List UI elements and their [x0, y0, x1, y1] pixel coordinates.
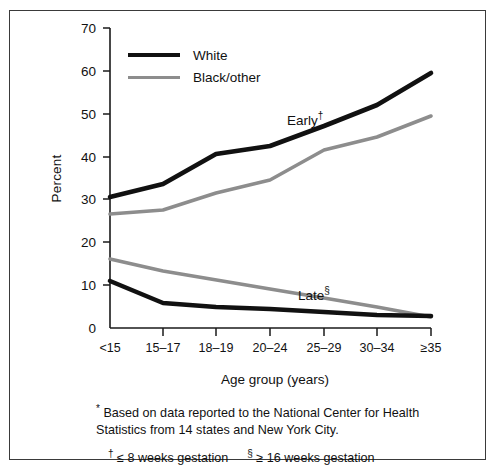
- footnote-section-text: ≥ 16 weeks gestation: [256, 451, 374, 465]
- y-tick-label-30: 30: [62, 192, 96, 207]
- x-tick-label-15-17: 15–17: [133, 341, 193, 355]
- annotation-early-text: Early: [287, 113, 318, 128]
- y-tick-label-0: 0: [62, 321, 96, 336]
- legend-swatch-black-other-icon: [128, 76, 180, 79]
- legend-label-white: White: [193, 48, 228, 63]
- footnote-section-mark: §: [247, 448, 253, 459]
- y-tick-label-50: 50: [62, 107, 96, 122]
- footnote-dagger-mark: †: [108, 448, 114, 459]
- legend-label-black-other: Black/other: [193, 70, 261, 85]
- x-tick-label-20-24: 20–24: [240, 341, 300, 355]
- x-tick-label-30-34: 30–34: [347, 341, 407, 355]
- y-tick-label-10: 10: [62, 278, 96, 293]
- annotation-late-text: Late: [298, 288, 324, 303]
- annotation-early-mark: †: [318, 110, 324, 121]
- series-line-early-black-other: [110, 116, 431, 214]
- x-tick-marks: [163, 328, 431, 336]
- footnote-dagger-section: † ≤ 8 weeks gestation § ≥ 16 weeks gesta…: [96, 447, 466, 467]
- series-line-late-white: [110, 281, 431, 316]
- footnote-star-text: Based on data reported to the National C…: [96, 406, 419, 436]
- annotation-late-mark: §: [324, 285, 330, 296]
- legend-item-black-other: Black/other: [128, 66, 261, 88]
- y-tick-label-20: 20: [62, 235, 96, 250]
- y-tick-label-40: 40: [62, 150, 96, 165]
- footnote-star: * Based on data reported to the National…: [96, 402, 466, 438]
- footnote-dagger-text: ≤ 8 weeks gestation: [117, 451, 228, 465]
- x-tick-label-lt15: <15: [80, 341, 140, 355]
- annotation-late: Late§: [298, 285, 330, 303]
- legend-swatch-white-icon: [128, 53, 180, 57]
- y-tick-label-70: 70: [62, 21, 96, 36]
- x-tick-label-25-29: 25–29: [294, 341, 354, 355]
- x-axis-title: Age group (years): [110, 372, 440, 387]
- y-axis-title: Percent: [49, 119, 64, 239]
- figure-border: 70 60 50 40 30 20 10 0 <15 15–17 18–19 2…: [9, 10, 486, 460]
- chart-legend: White Black/other: [128, 44, 261, 88]
- y-tick-marks: [103, 28, 110, 285]
- footnotes-block: * Based on data reported to the National…: [96, 402, 466, 466]
- footnote-star-mark: *: [96, 403, 100, 414]
- x-tick-label-18-19: 18–19: [186, 341, 246, 355]
- annotation-early: Early†: [287, 110, 323, 128]
- legend-item-white: White: [128, 44, 261, 66]
- x-tick-label-gte35: ≥35: [401, 341, 461, 355]
- chart-figure: 70 60 50 40 30 20 10 0 <15 15–17 18–19 2…: [0, 0, 496, 470]
- y-tick-label-60: 60: [62, 64, 96, 79]
